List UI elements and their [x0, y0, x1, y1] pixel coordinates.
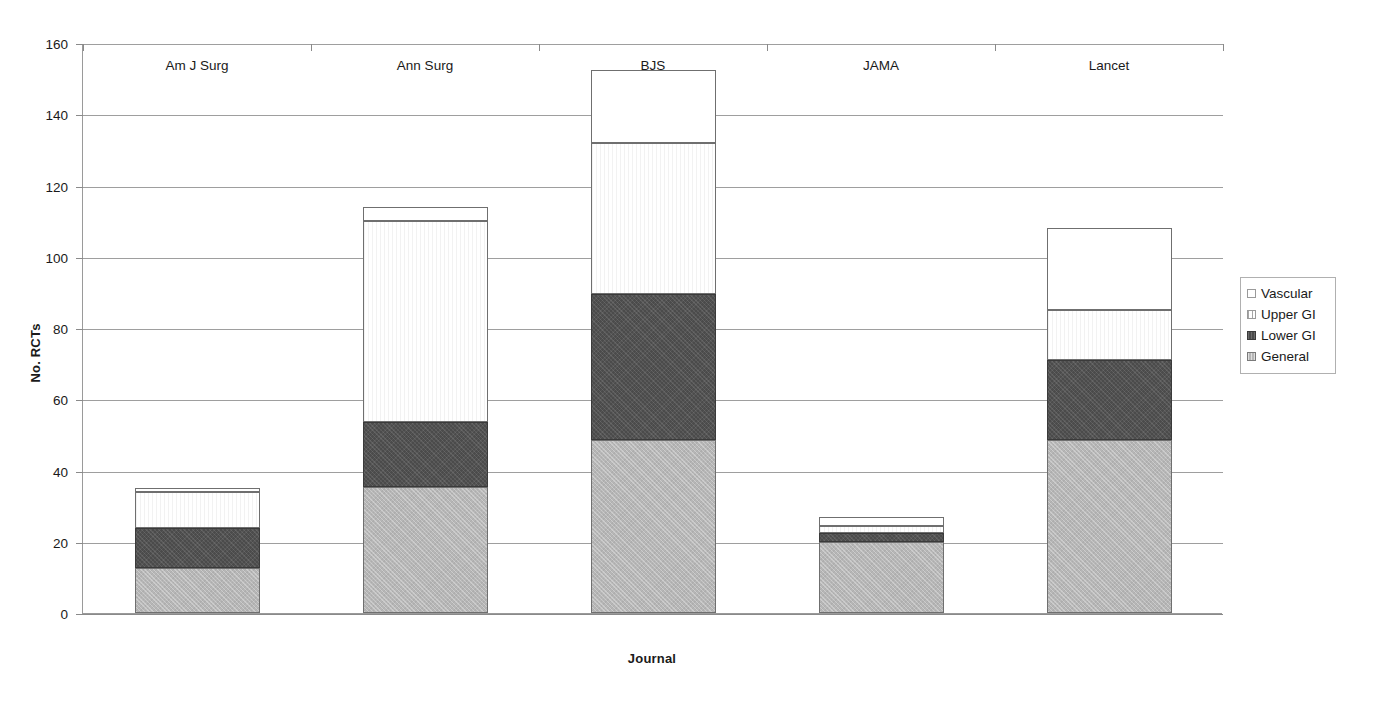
y-axis-tick-label-wrap: 60 [0, 400, 68, 415]
legend-item-uppergi[interactable]: Upper GI [1247, 304, 1329, 325]
y-axis-tick-label-wrap: 100 [0, 258, 68, 273]
y-axis-tick-label: 40 [0, 464, 68, 479]
bar-bjs[interactable] [591, 43, 716, 613]
legend-swatch-uppergi-icon [1247, 310, 1256, 319]
y-axis-tick-label-wrap: 120 [0, 187, 68, 202]
y-axis-tick [76, 115, 83, 116]
bar-segment-vascular[interactable] [819, 517, 944, 526]
x-axis-tick [767, 44, 768, 51]
bar-ann-surg[interactable] [363, 43, 488, 613]
y-axis-tick [76, 44, 83, 45]
legend-item-general[interactable]: General [1247, 346, 1329, 367]
bar-segment-vascular[interactable] [363, 207, 488, 221]
y-axis-tick [76, 543, 83, 544]
x-axis-tick-label: Am J Surg [165, 58, 228, 73]
gridline [83, 614, 1223, 615]
x-axis-tick-label: BJS [641, 58, 666, 73]
x-axis-tick-label: JAMA [863, 58, 899, 73]
bar-segment-uppergi[interactable] [1047, 310, 1172, 360]
legend: VascularUpper GILower GIGeneral [1240, 277, 1336, 374]
y-axis-tick-label: 100 [0, 250, 68, 265]
y-axis-tick-label-wrap: 20 [0, 543, 68, 558]
y-axis-tick [76, 329, 83, 330]
x-axis-tick-label: Lancet [1089, 58, 1130, 73]
legend-item-label: Vascular [1261, 287, 1313, 301]
bar-segment-lowergi[interactable] [591, 294, 716, 440]
x-axis-tick [83, 44, 84, 51]
bar-lancet[interactable] [1047, 43, 1172, 613]
legend-swatch-lowergi-icon [1247, 331, 1256, 340]
y-axis-tick-label: 140 [0, 108, 68, 123]
bar-segment-general[interactable] [1047, 440, 1172, 613]
x-axis-tick [539, 44, 540, 51]
y-axis-tick-label: 160 [0, 37, 68, 52]
x-axis-tick-label: Ann Surg [397, 58, 453, 73]
bar-segment-lowergi[interactable] [1047, 360, 1172, 440]
x-axis-tick [311, 44, 312, 51]
y-axis-tick-label-wrap: 160 [0, 44, 68, 59]
bar-segment-uppergi[interactable] [819, 526, 944, 533]
legend-swatch-vascular-icon [1247, 289, 1256, 298]
bar-segment-uppergi[interactable] [363, 221, 488, 422]
bar-segment-general[interactable] [591, 440, 716, 613]
bar-segment-uppergi[interactable] [135, 492, 260, 528]
bar-segment-general[interactable] [819, 542, 944, 613]
bar-segment-lowergi[interactable] [135, 528, 260, 569]
legend-item-label: General [1261, 350, 1309, 364]
y-axis-tick-label-wrap: 80 [0, 329, 68, 344]
y-axis-tick-label: 120 [0, 179, 68, 194]
y-axis-tick-label: 80 [0, 322, 68, 337]
plot-area: Am J SurgAnn SurgBJSJAMALancet [82, 44, 1222, 614]
legend-item-vascular[interactable]: Vascular [1247, 283, 1329, 304]
y-axis-tick [76, 614, 83, 615]
bar-segment-vascular[interactable] [135, 488, 260, 492]
x-axis-tick [1223, 44, 1224, 51]
bar-jama[interactable] [819, 43, 944, 613]
y-axis-tick-label: 60 [0, 393, 68, 408]
legend-item-label: Upper GI [1261, 308, 1316, 322]
y-axis-tick [76, 400, 83, 401]
legend-item-label: Lower GI [1261, 329, 1316, 343]
bar-segment-vascular[interactable] [1047, 228, 1172, 310]
y-axis-tick [76, 187, 83, 188]
bar-segment-general[interactable] [135, 568, 260, 613]
x-axis-title: Journal [82, 651, 1222, 666]
legend-swatch-general-icon [1247, 352, 1256, 361]
bar-segment-lowergi[interactable] [363, 422, 488, 486]
bar-segment-general[interactable] [363, 487, 488, 613]
x-axis-tick [995, 44, 996, 51]
y-axis-tick-label-wrap: 40 [0, 472, 68, 487]
y-axis-tick [76, 258, 83, 259]
y-axis-tick [76, 472, 83, 473]
bar-segment-vascular[interactable] [591, 70, 716, 143]
bar-segment-uppergi[interactable] [591, 143, 716, 294]
y-axis-tick-label: 0 [0, 607, 68, 622]
bar-segment-lowergi[interactable] [819, 533, 944, 542]
stacked-bar-chart: No. RCTs 020406080100120140160 Am J Surg… [0, 0, 1383, 706]
y-axis-tick-label-wrap: 0 [0, 614, 68, 629]
legend-item-lowergi[interactable]: Lower GI [1247, 325, 1329, 346]
bar-am-j-surg[interactable] [135, 43, 260, 613]
y-axis-tick-label-wrap: 140 [0, 115, 68, 130]
y-axis-tick-label: 20 [0, 535, 68, 550]
